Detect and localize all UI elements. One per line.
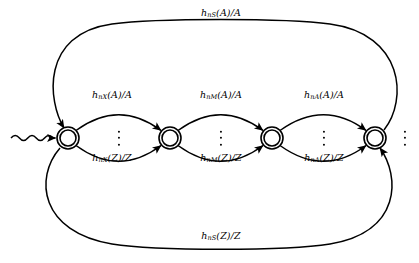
vertical-ellipsis-lens-1: [118, 131, 120, 146]
transition-arc-t2-upper: [178, 115, 263, 131]
start-arrow-wavy: [11, 136, 56, 141]
vertical-ellipsis-lens-2: [220, 131, 222, 146]
ellipsis-dot: [404, 131, 406, 133]
transition-label-t3-upper: hnA(A)/A: [304, 89, 344, 101]
transition-arc-t-top-return: [53, 20, 397, 131]
ellipsis-dot: [404, 137, 406, 139]
ellipsis-dot: [404, 143, 406, 145]
ellipsis-dot: [323, 137, 325, 139]
ellipsis-dot: [118, 137, 120, 139]
ellipsis-dot: [220, 131, 222, 133]
transition-label-t3-lower: hnA(Z)/Z: [304, 152, 344, 164]
ellipsis-dot: [118, 143, 120, 145]
state-node-s1[interactable]: [57, 127, 79, 149]
fsa-diagram: hnS(A)/A hnX(A)/A hnM(A)/A hnA(A)/A hnX(…: [0, 0, 419, 263]
transition-label-t1-upper: hnX(A)/A: [92, 89, 132, 101]
transition-label-t2-lower: hnM(Z)/Z: [200, 152, 242, 164]
transition-arc-t3-upper: [280, 115, 366, 131]
transition-label-t1-lower: hnX(Z)/Z: [92, 152, 132, 164]
transition-label-t-top-return: hnS(A)/A: [201, 7, 241, 19]
ellipsis-dot: [323, 131, 325, 133]
fsa-graph-canvas: [0, 0, 419, 263]
vertical-ellipsis-trailing: [404, 131, 406, 146]
transition-label-t-bottom-return: hnS(Z)/Z: [201, 230, 240, 242]
ellipsis-dot: [220, 143, 222, 145]
state-node-s3[interactable]: [261, 127, 283, 149]
transition-label-t2-upper: hnM(A)/A: [200, 89, 242, 101]
transition-arc-t1-upper: [76, 115, 161, 131]
vertical-ellipsis-lens-3: [323, 131, 325, 146]
ellipsis-dot: [323, 143, 325, 145]
state-node-s2[interactable]: [159, 127, 181, 149]
ellipsis-dot: [118, 131, 120, 133]
ellipsis-dot: [220, 137, 222, 139]
state-node-s4[interactable]: [364, 127, 386, 149]
